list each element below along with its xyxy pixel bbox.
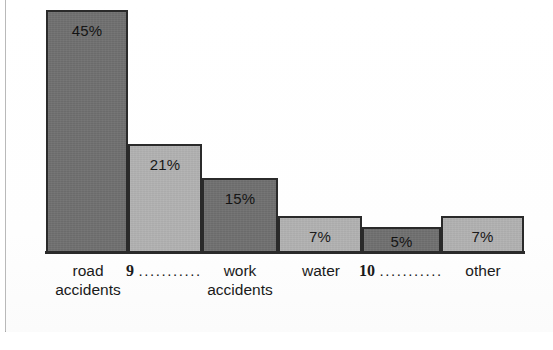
category-label-road-accidents: road accidents	[47, 261, 129, 299]
category-label-gap-nine: 9 ...........	[124, 261, 204, 280]
gap-number: 10	[359, 262, 375, 279]
bar-water: 7%	[278, 216, 362, 253]
gap-dotted-blank: ...........	[138, 262, 201, 279]
bar-gap-nine: 21%	[128, 144, 202, 253]
category-label-line2: accidents	[200, 280, 280, 299]
category-label-line1: work	[200, 261, 280, 280]
bar-other: 7%	[441, 216, 524, 253]
bar-road-accidents: 45%	[46, 10, 128, 253]
bar-value-label: 45%	[48, 23, 126, 38]
gap-dotted-blank: ...........	[379, 262, 442, 279]
chart-page: 45% 21% 15% 7% 5% 7% road accidents 9	[0, 0, 553, 350]
chart-baseline-axis	[45, 251, 525, 254]
category-label-line2: accidents	[47, 280, 129, 299]
category-label-line1: road	[47, 261, 129, 280]
category-label-work-accidents: work accidents	[200, 261, 280, 299]
bar-gap-ten: 5%	[362, 227, 441, 253]
bar-value-label: 5%	[364, 234, 439, 249]
category-label-line1: other	[442, 261, 524, 280]
bar-work-accidents: 15%	[202, 178, 278, 253]
category-label-gap-ten: 10 ...........	[358, 261, 444, 280]
bar-value-label: 7%	[280, 229, 360, 244]
bar-value-label: 7%	[443, 229, 522, 244]
bar-value-label: 21%	[130, 157, 200, 172]
category-label-water: water	[280, 261, 362, 280]
bar-chart-plot-area: 45% 21% 15% 7% 5% 7% road accidents 9	[0, 0, 553, 350]
category-label-line1: water	[280, 261, 362, 280]
category-label-other: other	[442, 261, 524, 280]
gap-number: 9	[126, 262, 134, 279]
bar-value-label: 15%	[204, 191, 276, 206]
